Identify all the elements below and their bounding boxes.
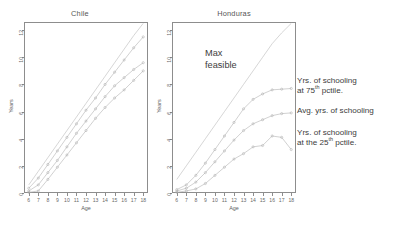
- x-tick-mark: [215, 193, 216, 196]
- legend-item-p75: Yrs. of schooling at 75th pctile.: [297, 76, 357, 96]
- honduras-x-label: Age: [172, 205, 296, 211]
- x-tick-label: 7: [181, 197, 191, 203]
- x-tick-label: 13: [239, 197, 249, 203]
- x-tick-label: 6: [172, 197, 182, 203]
- y-tick-label: 10: [166, 57, 172, 71]
- x-tick-mark: [234, 193, 235, 196]
- legend-item-p25: Yrs. of schooling at the 25th pctile.: [297, 128, 357, 148]
- y-tick-label: 12: [166, 30, 172, 44]
- x-tick-mark: [186, 193, 187, 196]
- legend-superscript: th: [329, 137, 334, 143]
- x-tick-label: 18: [286, 197, 296, 203]
- x-tick-label: 16: [267, 197, 277, 203]
- figure-root: Chile 024681012 6789101112131415161718 A…: [0, 0, 399, 227]
- y-tick-label: 4: [166, 139, 172, 153]
- y-tick-label: 6: [166, 112, 172, 126]
- x-tick-label: 11: [219, 197, 229, 203]
- x-tick-mark: [205, 193, 206, 196]
- y-tick-label: 8: [166, 84, 172, 98]
- x-tick-label: 10: [210, 197, 220, 203]
- series-line: [177, 136, 291, 192]
- x-tick-label: 17: [277, 197, 287, 203]
- x-tick-mark: [196, 193, 197, 196]
- x-tick-label: 15: [258, 197, 268, 203]
- legend-superscript: th: [315, 85, 320, 91]
- y-tick-label: 2: [166, 166, 172, 180]
- x-tick-mark: [224, 193, 225, 196]
- series-line: [177, 113, 291, 191]
- x-tick-mark: [282, 193, 283, 196]
- x-tick-mark: [177, 193, 178, 196]
- x-tick-label: 14: [248, 197, 258, 203]
- x-tick-label: 8: [191, 197, 201, 203]
- x-tick-mark: [253, 193, 254, 196]
- x-tick-mark: [291, 193, 292, 196]
- x-tick-mark: [272, 193, 273, 196]
- x-tick-mark: [244, 193, 245, 196]
- max-feasible-annotation: Max feasible: [205, 48, 237, 71]
- x-tick-label: 9: [200, 197, 210, 203]
- honduras-y-label: Years: [156, 86, 162, 126]
- legend-item-avg: Avg. yrs. of schooling: [297, 106, 374, 116]
- x-tick-label: 12: [229, 197, 239, 203]
- x-tick-mark: [263, 193, 264, 196]
- series-line: [177, 23, 291, 179]
